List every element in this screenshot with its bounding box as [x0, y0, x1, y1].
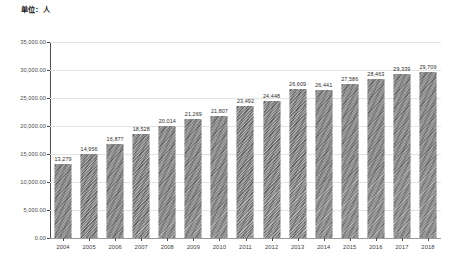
bar-slot: 21,807	[206, 42, 232, 238]
bar[interactable]: 29,709	[419, 72, 436, 238]
bar[interactable]: 26,441	[315, 90, 332, 238]
bar[interactable]: 23,492	[237, 106, 254, 238]
bar-value-label: 21,269	[185, 111, 202, 117]
y-tick-mark	[47, 238, 50, 239]
x-tick-label: 2012	[265, 244, 278, 250]
bar-slot: 28,463	[363, 42, 389, 238]
bar-slot: 21,269	[180, 42, 206, 238]
x-axis-ticks: 2004200520062007200820092010201120122013…	[50, 241, 441, 257]
x-tick-mark	[115, 238, 116, 241]
x-tick-label: 2010	[213, 244, 226, 250]
bar-value-label: 21,807	[211, 108, 228, 114]
y-tick-label: 20,000.00	[20, 123, 46, 129]
x-tick-label: 2017	[395, 244, 408, 250]
bar-value-label: 13,279	[54, 156, 71, 162]
bar-slot: 29,709	[415, 42, 441, 238]
y-tick-label: 0.00	[35, 235, 46, 241]
bar[interactable]: 24,448	[263, 101, 280, 238]
x-tick-label: 2013	[291, 244, 304, 250]
bar-chart: 单位：人 0.005,000.0010,000.0015,000.0020,00…	[0, 0, 450, 263]
bar[interactable]: 28,463	[367, 79, 384, 238]
y-tick-label: 5,000.00	[23, 207, 46, 213]
plot-area: 0.005,000.0010,000.0015,000.0020,000.002…	[50, 42, 441, 238]
x-tick-label: 2005	[82, 244, 95, 250]
bar[interactable]: 14,956	[81, 154, 98, 238]
bar-value-label: 18,528	[133, 126, 150, 132]
bar[interactable]: 20,014	[159, 126, 176, 238]
bar[interactable]: 27,586	[341, 84, 358, 238]
x-tick-label: 2014	[317, 244, 330, 250]
bar-value-label: 20,014	[159, 118, 176, 124]
y-tick-label: 25,000.00	[20, 95, 46, 101]
x-tick-label: 2006	[109, 244, 122, 250]
bar-slot: 24,448	[259, 42, 285, 238]
x-tick-label: 2009	[187, 244, 200, 250]
x-tick-mark	[167, 238, 168, 241]
x-tick-mark	[324, 238, 325, 241]
bar-value-label: 29,339	[393, 66, 410, 72]
bar[interactable]: 21,807	[211, 116, 228, 238]
x-tick-mark	[193, 238, 194, 241]
bar-value-label: 14,956	[81, 146, 98, 152]
bar-slot: 23,492	[232, 42, 258, 238]
x-tick-label: 2008	[161, 244, 174, 250]
x-tick-label: 2004	[56, 244, 69, 250]
bar-slot: 27,586	[337, 42, 363, 238]
x-tick-mark	[89, 238, 90, 241]
y-tick-label: 15,000.00	[20, 151, 46, 157]
x-tick-mark	[428, 238, 429, 241]
x-tick-mark	[298, 238, 299, 241]
x-tick-label: 2015	[343, 244, 356, 250]
bar-value-label: 26,441	[315, 82, 332, 88]
x-tick-mark	[141, 238, 142, 241]
x-tick-mark	[350, 238, 351, 241]
x-tick-mark	[63, 238, 64, 241]
bar[interactable]: 29,339	[393, 74, 410, 238]
bar-slot: 20,014	[154, 42, 180, 238]
bar-value-label: 27,586	[341, 76, 358, 82]
bar-slot: 13,279	[50, 42, 76, 238]
bar-value-label: 29,709	[419, 64, 436, 70]
x-tick-mark	[272, 238, 273, 241]
bar-slot: 29,339	[389, 42, 415, 238]
bar-slot: 14,956	[76, 42, 102, 238]
x-tick-mark	[376, 238, 377, 241]
bar-value-label: 16,877	[107, 136, 124, 142]
bar[interactable]: 18,528	[133, 134, 150, 238]
bar-value-label: 24,448	[263, 93, 280, 99]
bar[interactable]: 13,279	[55, 164, 72, 238]
bar-slot: 16,877	[102, 42, 128, 238]
chart-unit-caption: 单位：人	[21, 4, 50, 14]
bar-slot: 26,609	[285, 42, 311, 238]
bar[interactable]: 16,877	[107, 144, 124, 239]
x-tick-mark	[402, 238, 403, 241]
x-tick-label: 2016	[369, 244, 382, 250]
bar-value-label: 23,492	[237, 98, 254, 104]
bar-value-label: 26,609	[289, 81, 306, 87]
y-tick-label: 30,000.00	[20, 67, 46, 73]
bar[interactable]: 21,269	[185, 119, 202, 238]
bar[interactable]: 26,609	[289, 89, 306, 238]
y-tick-label: 35,000.00	[20, 39, 46, 45]
bar-slot: 18,528	[128, 42, 154, 238]
x-tick-label: 2007	[135, 244, 148, 250]
y-tick-label: 10,000.00	[20, 179, 46, 185]
bar-series: 13,27914,95616,87718,52820,01421,26921,8…	[50, 42, 441, 238]
bar-value-label: 28,463	[367, 71, 384, 77]
x-tick-mark	[246, 238, 247, 241]
x-tick-label: 2018	[421, 244, 434, 250]
bar-slot: 26,441	[311, 42, 337, 238]
x-tick-label: 2011	[239, 244, 252, 250]
x-tick-mark	[219, 238, 220, 241]
